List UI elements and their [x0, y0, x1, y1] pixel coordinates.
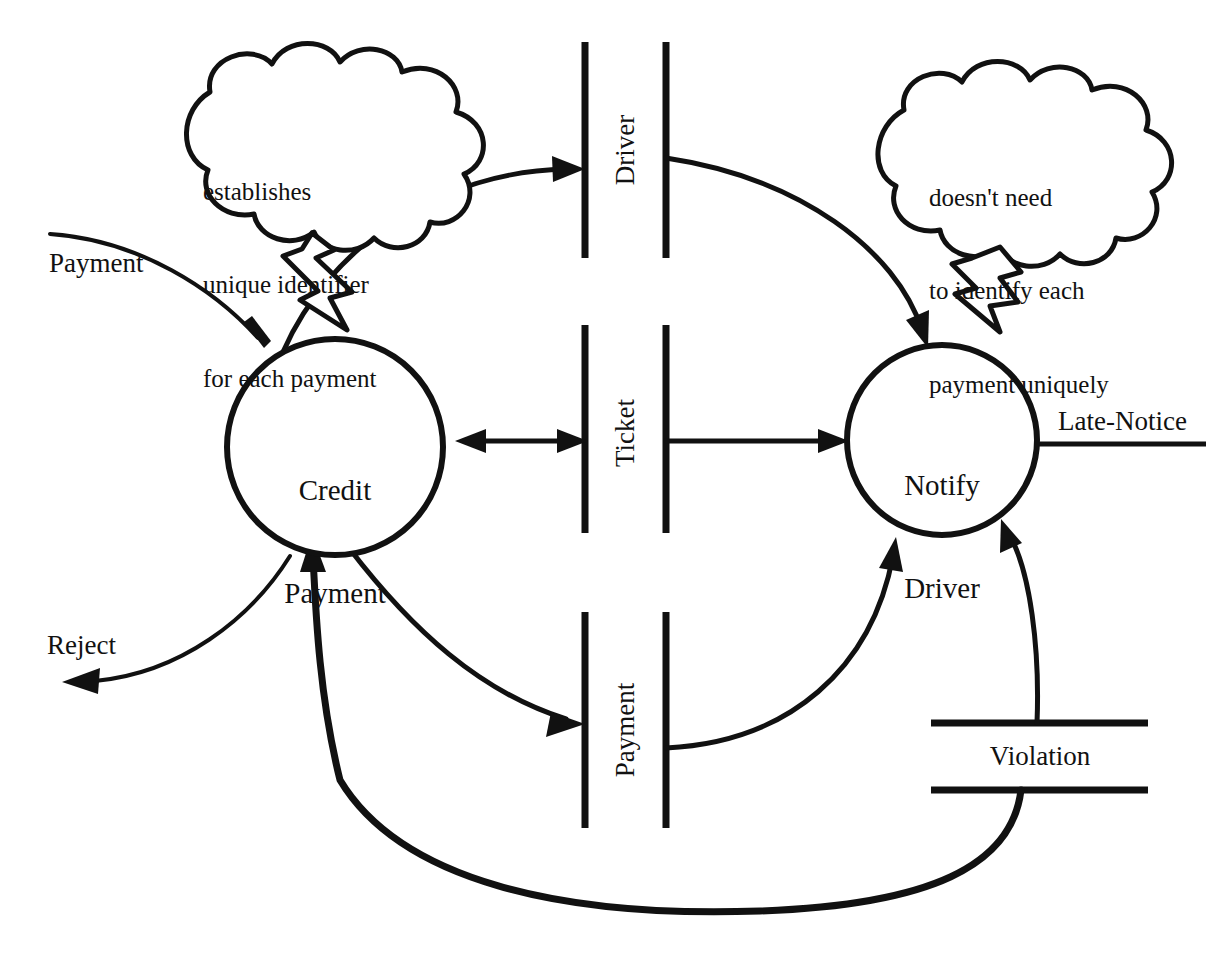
- process-label-line1: Credit: [235, 473, 435, 507]
- diagram-canvas: Credit Payment Notify Driver Driver Tick…: [0, 0, 1206, 956]
- callout-text-left: establishes unique identifier for each p…: [203, 113, 433, 457]
- data-store-label-ticket: Ticket: [610, 399, 642, 467]
- flow-label-reject: Reject: [47, 630, 116, 662]
- data-store-label-driver: Driver: [610, 115, 642, 185]
- flow-credit-ticket: [455, 429, 588, 453]
- flow-label-payment: Payment: [49, 248, 144, 280]
- callout-right-line1: doesn't need: [929, 182, 1164, 213]
- flow-ticket-to-notify: [666, 429, 849, 453]
- process-label-line2: Payment: [235, 576, 435, 610]
- data-store-label-violation: Violation: [990, 741, 1090, 773]
- process-label-line2: Driver: [842, 571, 1042, 605]
- callout-right-line2: to identify each: [929, 275, 1164, 306]
- process-label-line1: Notify: [842, 468, 1042, 502]
- callout-left-line2: unique identifier: [203, 269, 433, 300]
- flow-driver-to-notify: [666, 158, 929, 348]
- callout-right-line3: payment uniquely: [929, 369, 1164, 400]
- data-store-label-payment: Payment: [610, 683, 642, 778]
- callout-left-line1: establishes: [203, 176, 433, 207]
- callout-text-right: doesn't need to identify each payment un…: [929, 119, 1164, 463]
- callout-left-line3: for each payment: [203, 363, 433, 394]
